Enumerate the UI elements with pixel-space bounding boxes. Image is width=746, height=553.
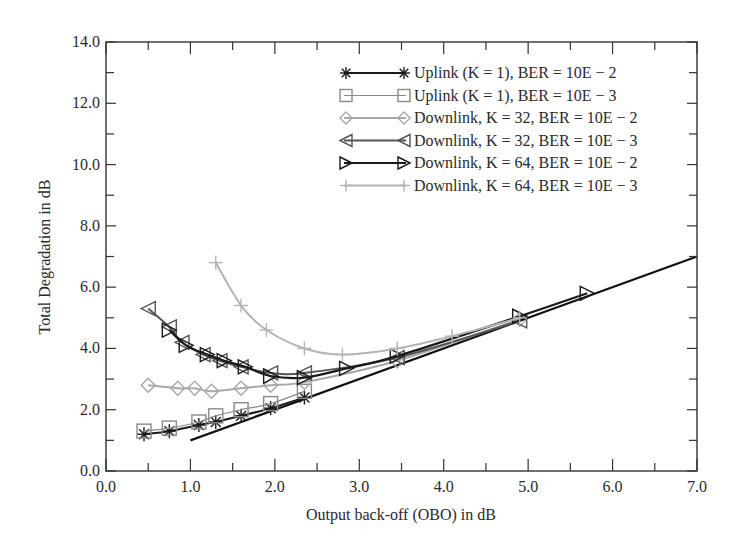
x-tick-label: 6.0: [603, 478, 623, 495]
x-tick-label: 7.0: [687, 478, 707, 495]
series-plus: [209, 256, 527, 362]
chart: 0.01.02.03.04.05.06.07.00.02.04.06.08.01…: [0, 0, 746, 553]
plot-frame: [106, 42, 697, 471]
legend-label: Downlink, K = 64, BER = 10E − 2: [414, 154, 638, 171]
plot-area: [137, 256, 697, 442]
legend-item: Downlink, K = 32, BER = 10E − 2: [340, 109, 638, 126]
y-axis-title: Total Degradation in dB: [36, 180, 54, 335]
legend-item: Downlink, K = 64, BER = 10E − 2: [340, 154, 638, 171]
series-square: [137, 384, 311, 438]
series-triangle-right: [162, 286, 594, 384]
x-tick-label: 0.0: [96, 478, 116, 495]
y-tick-label: 10.0: [72, 156, 100, 173]
y-tick-label: 0.0: [80, 462, 100, 479]
y-tick-label: 4.0: [80, 339, 100, 356]
legend: Uplink (K = 1), BER = 10E − 2Uplink (K =…: [340, 64, 638, 194]
y-tick-label: 2.0: [80, 401, 100, 418]
series-triangle-left: [141, 302, 526, 380]
legend-item: Downlink, K = 64, BER = 10E − 3: [340, 177, 638, 194]
x-tick-label: 5.0: [518, 478, 538, 495]
legend-item: Downlink, K = 32, BER = 10E − 3: [340, 132, 638, 149]
x-tick-label: 2.0: [265, 478, 285, 495]
y-tick-label: 12.0: [72, 94, 100, 111]
x-tick-label: 3.0: [349, 478, 369, 495]
legend-label: Downlink, K = 64, BER = 10E − 3: [414, 177, 638, 194]
legend-label: Downlink, K = 32, BER = 10E − 3: [414, 132, 638, 149]
x-axis-title: Output back-off (OBO) in dB: [306, 506, 496, 524]
y-tick-label: 6.0: [80, 278, 100, 295]
y-tick-label: 8.0: [80, 217, 100, 234]
legend-label: Uplink (K = 1), BER = 10E − 2: [414, 64, 617, 82]
x-tick-label: 1.0: [180, 478, 200, 495]
legend-item: Uplink (K = 1), BER = 10E − 2: [340, 64, 617, 82]
legend-label: Uplink (K = 1), BER = 10E − 3: [414, 87, 617, 105]
legend-label: Downlink, K = 32, BER = 10E − 2: [414, 109, 638, 126]
x-tick-label: 4.0: [434, 478, 454, 495]
y-tick-label: 14.0: [72, 33, 100, 50]
legend-item: Uplink (K = 1), BER = 10E − 3: [340, 87, 617, 105]
